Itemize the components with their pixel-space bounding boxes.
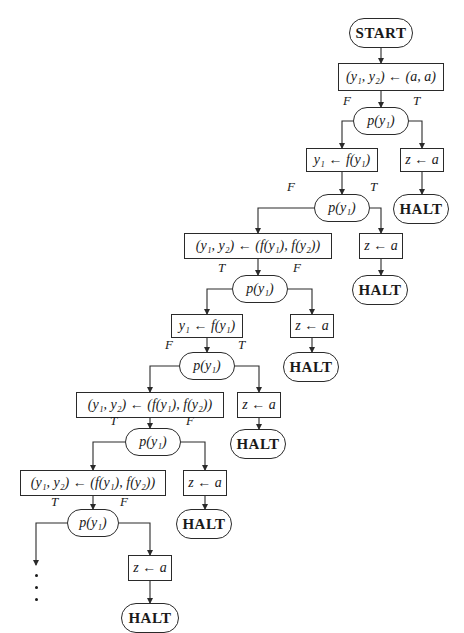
node-label: (y₁, y₂) ← (f(y₁), f(y₂)) bbox=[196, 238, 320, 254]
node-label: y₁ ← f(y₁) bbox=[179, 318, 235, 334]
assignment-node: (y₁, y₂) ← (f(y₁), f(y₂)) bbox=[76, 392, 224, 418]
halt-node: HALT bbox=[352, 275, 408, 305]
false-branch-label: F bbox=[186, 414, 194, 427]
assignment-node: (y₁, y₂) ← (a, a) bbox=[338, 63, 444, 91]
test-node: p(y₁) bbox=[232, 275, 288, 303]
node-label: (y₁, y₂) ← (a, a) bbox=[346, 69, 436, 85]
continuation-dot bbox=[35, 586, 38, 589]
assignment-node: z ← a bbox=[359, 233, 403, 259]
node-label: z ← a bbox=[133, 560, 166, 576]
flow-arrow bbox=[370, 208, 381, 233]
continuation-dot bbox=[35, 598, 38, 601]
node-label: z ← a bbox=[405, 152, 438, 168]
continuation-dot bbox=[35, 574, 38, 577]
node-label: p(y₁) bbox=[328, 200, 355, 216]
false-branch-label: F bbox=[120, 495, 128, 508]
flow-arrow bbox=[258, 208, 314, 233]
node-label: p(y₁) bbox=[79, 515, 106, 531]
flow-arrow bbox=[235, 366, 259, 392]
node-label: HALT bbox=[182, 516, 225, 533]
node-label: z ← a bbox=[295, 318, 328, 334]
assignment-node: (y₁, y₂) ← (f(y₁), f(y₂)) bbox=[20, 470, 166, 496]
node-label: y₁ ← f(y₁) bbox=[314, 152, 370, 168]
assignment-node: (y₁, y₂) ← (f(y₁), f(y₂)) bbox=[184, 233, 332, 259]
node-label: (y₁, y₂) ← (f(y₁), f(y₂)) bbox=[31, 475, 155, 491]
halt-node: HALT bbox=[176, 509, 232, 539]
assignment-node: z ← a bbox=[183, 470, 227, 496]
assignment-node: y₁ ← f(y₁) bbox=[306, 148, 378, 172]
halt-node: HALT bbox=[393, 194, 449, 224]
halt-node: HALT bbox=[230, 429, 286, 459]
node-label: (y₁, y₂) ← (f(y₁), f(y₂)) bbox=[88, 397, 212, 413]
assignment-node: z ← a bbox=[128, 555, 172, 581]
node-label: z ← a bbox=[364, 238, 397, 254]
test-node: p(y₁) bbox=[67, 509, 119, 537]
node-label: p(y₁) bbox=[367, 113, 394, 129]
test-node: p(y₁) bbox=[314, 194, 370, 222]
flow-arrow bbox=[181, 442, 205, 470]
node-label: p(y₁) bbox=[139, 434, 166, 450]
true-branch-label: T bbox=[370, 180, 377, 193]
false-branch-label: F bbox=[343, 94, 351, 107]
halt-node: HALT bbox=[283, 352, 339, 382]
test-node: p(y₁) bbox=[125, 428, 181, 456]
node-label: z ← a bbox=[188, 475, 221, 491]
assignment-node: z ← a bbox=[237, 392, 281, 418]
flow-arrow bbox=[288, 289, 312, 314]
test-node: p(y₁) bbox=[179, 352, 235, 380]
flow-arrow bbox=[207, 289, 232, 314]
node-label: p(y₁) bbox=[193, 358, 220, 374]
true-branch-label: T bbox=[413, 94, 420, 107]
assignment-node: y₁ ← f(y₁) bbox=[171, 314, 243, 338]
test-node: p(y₁) bbox=[353, 107, 409, 135]
assignment-node: z ← a bbox=[400, 148, 444, 172]
halt-node: HALT bbox=[121, 603, 179, 633]
false-branch-label: F bbox=[165, 338, 173, 351]
flow-arrow bbox=[93, 442, 125, 470]
node-label: p(y₁) bbox=[246, 281, 273, 297]
flow-arrow bbox=[342, 121, 353, 148]
node-label: HALT bbox=[399, 201, 442, 218]
start-node: START bbox=[349, 18, 413, 48]
flow-arrow bbox=[150, 366, 179, 392]
node-label: HALT bbox=[358, 282, 401, 299]
node-label: z ← a bbox=[242, 397, 275, 413]
false-branch-label: F bbox=[293, 261, 301, 274]
false-branch-label: F bbox=[287, 180, 295, 193]
node-label: HALT bbox=[289, 359, 332, 376]
node-label: HALT bbox=[128, 610, 171, 627]
true-branch-label: T bbox=[238, 338, 245, 351]
flowchart-canvas: START(y₁, y₂) ← (a, a)p(y₁)y₁ ← f(y₁)z ←… bbox=[0, 0, 464, 633]
node-label: START bbox=[356, 25, 407, 42]
assignment-node: z ← a bbox=[290, 314, 334, 338]
flow-arrow bbox=[36, 523, 67, 565]
true-branch-label: T bbox=[218, 261, 225, 274]
flow-arrow bbox=[409, 121, 422, 148]
flow-arrow bbox=[119, 523, 150, 555]
node-label: HALT bbox=[236, 436, 279, 453]
true-branch-label: T bbox=[110, 414, 117, 427]
true-branch-label: T bbox=[51, 495, 58, 508]
